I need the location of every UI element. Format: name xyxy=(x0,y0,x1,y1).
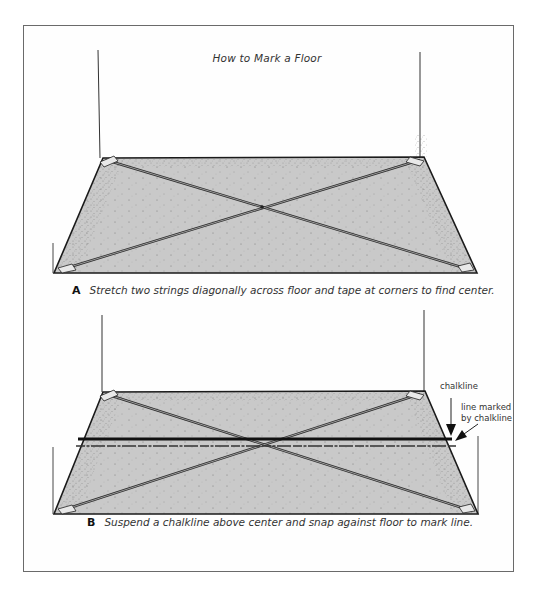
arrow-down-icon xyxy=(446,424,456,436)
caption-b: BSuspend a chalkline above center and sn… xyxy=(87,516,473,529)
string-line-left xyxy=(98,50,100,158)
panel-a-illustration xyxy=(53,50,477,273)
caption-text-a: Stretch two strings diagonally across fl… xyxy=(90,284,495,296)
caption-letter-a: A xyxy=(72,284,81,297)
caption-letter-b: B xyxy=(87,516,95,529)
caption-a: AStretch two strings diagonally across f… xyxy=(72,284,495,297)
floor-marking-diagram xyxy=(0,0,534,602)
callout-marked-line-2: by chalkline xyxy=(461,412,512,424)
arrow-left-icon xyxy=(455,430,467,441)
caption-text-b: Suspend a chalkline above center and sna… xyxy=(104,516,473,528)
callout-chalkline: chalkline xyxy=(440,380,478,392)
panel-b-illustration xyxy=(53,310,478,514)
center-point-a xyxy=(260,205,264,209)
